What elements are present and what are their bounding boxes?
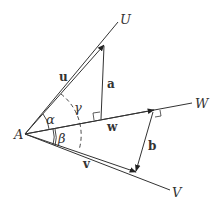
angle-beta-arc <box>53 129 54 145</box>
label-point-v: V <box>172 185 183 200</box>
label-vector-w: w <box>106 120 118 134</box>
label-point-u: U <box>120 12 132 27</box>
label-vector-a: a <box>107 77 115 91</box>
label-angle-gamma: γ <box>74 100 82 115</box>
vector-diagram: A U W V u a w b v α γ β <box>0 0 217 201</box>
vector-w <box>25 110 154 134</box>
label-point-a: A <box>13 127 23 142</box>
vector-v <box>25 134 136 172</box>
label-vector-b: b <box>148 139 156 153</box>
right-angle-a <box>93 112 100 120</box>
angle-beta-arc-inner <box>55 129 56 146</box>
label-point-w: W <box>195 96 210 111</box>
vector-a <box>101 46 104 119</box>
label-vector-v: v <box>82 157 91 171</box>
vector-u <box>25 45 104 134</box>
label-angle-alpha: α <box>46 112 55 127</box>
right-angle-b <box>155 110 161 117</box>
label-angle-beta: β <box>57 131 66 146</box>
label-vector-u: u <box>59 70 68 84</box>
diagram-svg: A U W V u a w b v α γ β <box>0 0 217 201</box>
ray-au <box>25 22 118 134</box>
